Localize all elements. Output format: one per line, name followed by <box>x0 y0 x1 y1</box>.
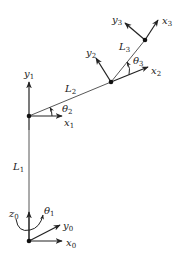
frame-0 <box>16 212 62 241</box>
label-L3: L3 <box>118 41 130 54</box>
label-y3: y3 <box>111 14 122 27</box>
label-y0: y0 <box>62 220 73 233</box>
y0-axis-arrow <box>29 225 60 241</box>
label-x0: x0 <box>66 237 76 250</box>
label-theta1: θ1 <box>44 205 55 218</box>
robot-arm-diagram: L1 L2 L3 θ1 θ2 θ3 x0 y0 z0 x1 y1 x2 y2 x… <box>0 0 182 268</box>
label-x1: x1 <box>64 117 74 130</box>
joint-2-dot <box>109 80 114 85</box>
label-z0: z0 <box>8 208 19 221</box>
label-L1: L1 <box>12 161 24 174</box>
frame-1 <box>29 82 62 130</box>
joint-1-dot <box>27 114 32 119</box>
label-x2: x2 <box>151 65 161 78</box>
label-y2: y2 <box>85 47 96 60</box>
y2-axis-arrow <box>96 58 111 82</box>
label-theta3: θ3 <box>133 55 144 68</box>
x3-axis-arrow <box>145 20 158 40</box>
label-L2: L2 <box>64 83 76 96</box>
joint-0-dot <box>27 239 32 244</box>
theta2-arc-icon <box>50 108 52 117</box>
label-x3: x3 <box>162 15 172 28</box>
theta3-arc-icon <box>127 62 130 75</box>
y3-axis-arrow <box>125 23 145 40</box>
label-y1: y1 <box>23 68 34 81</box>
frame-3 <box>125 20 158 40</box>
joint-3-dot <box>143 38 148 43</box>
label-theta2: θ2 <box>62 103 73 116</box>
